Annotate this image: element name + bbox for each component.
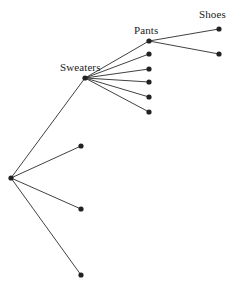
tree-edge	[11, 178, 81, 275]
tree-edge	[85, 78, 149, 82]
label-pants: Pants	[134, 24, 158, 36]
shoes-sibling-leaf-dot[interactable]	[216, 51, 221, 56]
tree-graphics-canvas	[0, 0, 247, 293]
root-hub-dot[interactable]	[8, 175, 13, 180]
sweaters-leaf-dot[interactable]	[146, 109, 151, 114]
tree-edge	[149, 41, 219, 54]
nodes-layer	[8, 26, 221, 277]
sweaters-leaf-dot[interactable]	[146, 51, 151, 56]
pants-node-dot[interactable]	[146, 38, 151, 43]
tree-edge	[85, 78, 149, 112]
sweaters-leaf-dot[interactable]	[146, 94, 151, 99]
edges-layer	[11, 29, 219, 275]
shoes-node-dot[interactable]	[216, 26, 221, 31]
root-leaf-dot[interactable]	[78, 206, 83, 211]
root-leaf-dot[interactable]	[78, 143, 83, 148]
tree-edge	[149, 29, 219, 41]
sweaters-hub-dot[interactable]	[82, 75, 87, 80]
tree-diagram: SweatersPantsShoes	[0, 0, 247, 293]
tree-edge	[11, 146, 81, 178]
tree-edge	[85, 78, 149, 97]
root-leaf-dot[interactable]	[78, 272, 83, 277]
label-sweaters: Sweaters	[60, 61, 101, 73]
tree-edge	[11, 178, 81, 209]
sweaters-leaf-dot[interactable]	[146, 66, 151, 71]
sweaters-leaf-dot[interactable]	[146, 79, 151, 84]
label-shoes: Shoes	[199, 8, 226, 20]
tree-edge	[11, 78, 85, 178]
